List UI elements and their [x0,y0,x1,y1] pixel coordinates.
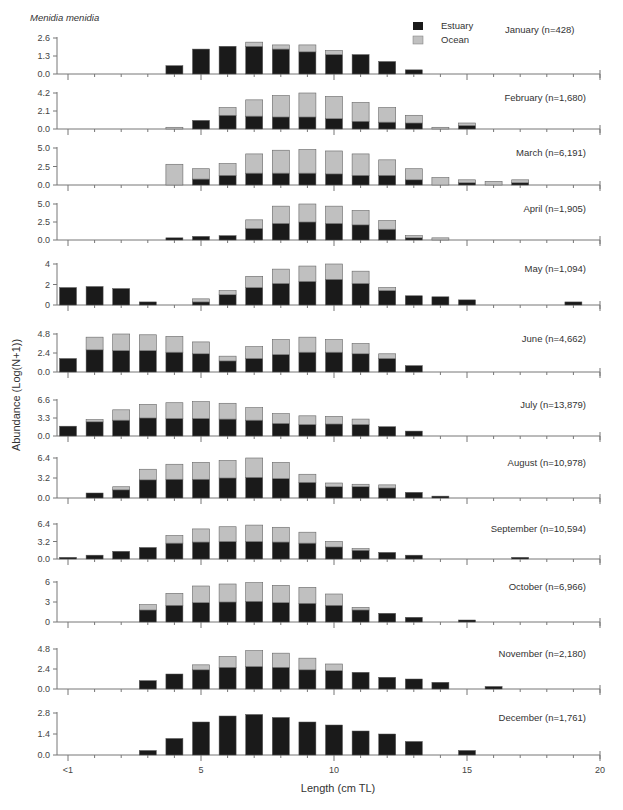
bar-ocean [326,416,343,424]
bar-estuary [405,180,422,185]
bar-estuary [193,354,210,372]
bar-estuary [166,238,183,240]
bar-ocean [272,269,289,283]
bar-ocean [352,549,369,551]
bar-estuary [219,295,236,305]
bar-ocean [485,181,502,185]
y-tick-label: 0.0 [37,367,50,377]
month-panel: 0.02.44.8November (n=2,180) [37,644,600,695]
bar-estuary [379,229,396,240]
bar-estuary [166,543,183,559]
bar-estuary [459,300,476,305]
bar-estuary [60,288,77,305]
y-tick-label: 0 [45,617,50,627]
bar-estuary [565,302,582,305]
bar-estuary [326,487,343,498]
legend-ocean-swatch [413,36,423,44]
bar-ocean [326,151,343,174]
bar-estuary [432,496,449,498]
bar-ocean [246,458,263,477]
bar-estuary [246,359,263,372]
bar-ocean [193,586,210,603]
y-tick-label: 0.0 [37,750,50,760]
bar-estuary [352,121,369,129]
y-tick-label: 6 [45,577,50,587]
bar-estuary [113,420,130,436]
bar-estuary [246,715,263,756]
y-tick-label: 2.6 [37,33,50,43]
bar-estuary [405,123,422,129]
bar-ocean [352,484,369,487]
bar-ocean [352,607,369,610]
bar-estuary [405,366,422,372]
x-tick-label: 20 [595,765,605,775]
bar-estuary [299,352,316,372]
bar-estuary [193,479,210,498]
bar-ocean [272,653,289,667]
panel-month-label: November (n=2,180) [499,648,586,659]
bar-ocean [299,658,316,670]
bar-estuary [352,672,369,689]
bar-estuary [326,223,343,240]
bar-ocean [113,334,130,351]
bar-estuary [459,126,476,129]
y-tick-label: 4.8 [37,329,50,339]
y-tick-label: 0.0 [37,431,50,441]
month-panel: 0.02.44.8June (n=4,662) [37,329,600,378]
bar-estuary [246,228,263,240]
legend-estuary-label: Estuary [441,20,473,31]
y-tick-label: 3.2 [37,473,50,483]
x-axis-title: Length (cm TL) [301,782,375,794]
bar-ocean [246,347,263,359]
bar-estuary [299,603,316,622]
bar-ocean [166,336,183,352]
bar-estuary [219,602,236,622]
legend-ocean-label: Ocean [441,34,469,45]
bar-ocean [326,340,343,353]
bar-estuary [193,49,210,74]
bar-ocean [405,115,422,123]
bar-estuary [246,601,263,622]
bar-estuary [379,488,396,498]
x-tick-label: 10 [329,765,339,775]
bar-ocean [379,485,396,488]
bar-ocean [272,206,289,223]
bar-estuary [246,173,263,185]
bar-estuary [139,681,156,689]
bar-estuary [379,175,396,185]
y-tick-label: 0.0 [37,235,50,245]
bar-ocean [193,462,210,479]
bar-ocean [299,45,316,52]
stacked-bar-chart-panels: Menidia menidia Estuary Ocean 0.01.32.6J… [0,0,623,810]
bar-ocean [299,416,316,425]
bar-estuary [326,174,343,185]
bar-ocean [352,210,369,224]
bar-estuary [326,424,343,436]
bar-estuary [219,361,236,372]
bar-estuary [299,722,316,755]
y-tick-label: 2 [45,280,50,290]
month-panel: 0.02.14.2February (n=1,680) [37,88,600,135]
bar-estuary [139,610,156,622]
y-tick-label: 2.1 [37,106,50,116]
bar-estuary [485,687,502,690]
month-panel: 036October (n=6,966) [45,577,600,628]
bar-estuary [352,354,369,372]
bar-estuary [166,674,183,689]
bar-estuary [326,55,343,74]
panel-month-label: October (n=6,966) [509,581,586,592]
bar-estuary [139,751,156,756]
bar-estuary [405,296,422,305]
bar-ocean [166,403,183,419]
bar-ocean [299,149,316,173]
bar-estuary [326,671,343,689]
bar-ocean [299,532,316,543]
bar-estuary [139,351,156,372]
bar-ocean [219,527,236,542]
bar-estuary [405,742,422,756]
bar-estuary [166,605,183,622]
month-panel: 0.02.55.0March (n=6,191) [37,143,600,191]
y-tick-label: 2.8 [37,708,50,718]
bar-estuary [219,175,236,185]
bar-estuary [272,355,289,372]
